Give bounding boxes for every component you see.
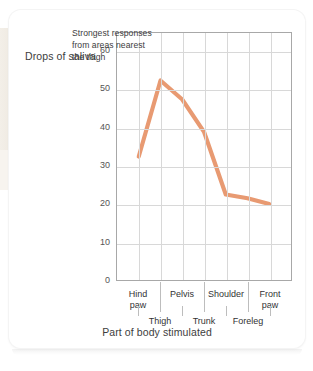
gridline-vertical [227,33,228,280]
card-shadow [12,349,302,355]
x-axis-divider-tick-lower [226,306,227,316]
gridline-horizontal [117,90,291,91]
x-axis-title: Part of body stimulated [9,326,305,338]
y-axis-tick-label: 30 [86,160,110,170]
plot-area [116,32,292,281]
x-axis-divider-tick [204,282,205,312]
gridline-vertical [183,33,184,280]
x-axis-divider-tick-lower [182,306,183,316]
x-axis-divider-tick [160,282,161,312]
x-axis-label-bottom: Foreleg [222,316,274,326]
gridline-horizontal [117,205,291,206]
y-axis-tick-label: 10 [86,237,110,247]
gridline-vertical [139,33,140,280]
x-axis-divider-tick [248,282,249,312]
gridline-vertical [161,33,162,280]
gridline-horizontal [117,167,291,168]
chart-annotation: Strongest responses from areas nearest t… [72,27,152,64]
x-axis-divider-tick-lower [270,306,271,316]
x-axis-divider-tick-lower [138,306,139,316]
y-axis-tick-label: 0 [86,275,110,285]
gridline-vertical [249,33,250,280]
saliva-response-chart: Drops of saliva 0102030405060 Strongest … [9,10,305,348]
gridline-vertical [271,33,272,280]
gridline-vertical [205,33,206,280]
y-axis-tick-label: 20 [86,198,110,208]
y-axis-tick-label: 40 [86,122,110,132]
gridline-horizontal [117,129,291,130]
y-axis-tick-label: 50 [86,83,110,93]
gridline-horizontal [117,244,291,245]
